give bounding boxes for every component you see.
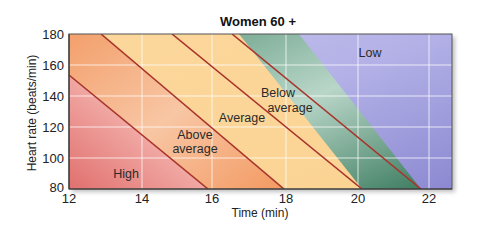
zone-label-low: Low	[359, 46, 383, 60]
x-tick: 16	[205, 191, 219, 206]
zone-label-average: Average	[219, 111, 265, 125]
zone-label-high: High	[113, 167, 139, 181]
x-tick-labels: 12 14 16 18 20 22	[62, 191, 436, 206]
x-tick: 12	[62, 191, 76, 206]
y-tick: 160	[42, 58, 64, 73]
x-tick: 20	[351, 191, 365, 206]
y-axis-label: Heart rate (beats/min)	[25, 55, 39, 172]
y-tick: 120	[42, 120, 64, 135]
y-tick: 100	[42, 151, 64, 166]
x-tick: 22	[422, 191, 436, 206]
x-tick: 18	[279, 191, 293, 206]
heart-rate-chart: Women 60 + 180 160 140 120 100 80 12 14 …	[0, 0, 479, 231]
y-tick-labels: 180 160 140 120 100 80	[42, 27, 64, 195]
chart-title: Women 60 +	[220, 14, 296, 29]
zone-label-below-2: average	[267, 101, 312, 115]
x-tick: 14	[135, 191, 149, 206]
zone-label-above-2: average	[172, 142, 217, 156]
x-axis-label: Time (min)	[232, 206, 289, 220]
y-tick: 180	[42, 27, 64, 42]
zone-label-above-1: Above	[177, 128, 212, 142]
zone-label-below-1: Below	[261, 86, 296, 100]
y-tick: 140	[42, 89, 64, 104]
